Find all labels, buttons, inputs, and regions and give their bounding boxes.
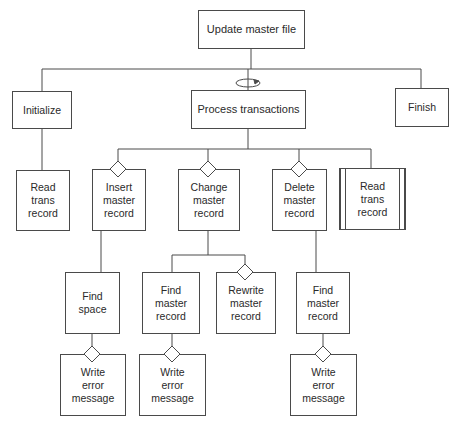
selection-diamond-icon xyxy=(84,346,100,362)
selection-diamond-icon xyxy=(315,346,331,362)
selection-diamond-icon xyxy=(291,161,307,177)
selection-diamond-icon xyxy=(164,346,180,362)
selection-diamond-icon xyxy=(200,161,216,177)
selection-diamond-icon xyxy=(237,264,253,280)
selection-markers-overlay xyxy=(0,0,462,432)
selection-diamond-icon xyxy=(110,161,126,177)
structure-chart: Update master file Initialize Process tr… xyxy=(0,0,462,432)
